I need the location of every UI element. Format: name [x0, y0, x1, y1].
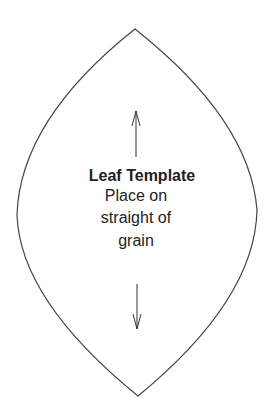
instruction-line-3: grain [0, 232, 272, 250]
leaf-template-page: Leaf Template Place on straight of grain [0, 0, 272, 412]
leaf-outline [0, 0, 272, 412]
template-title: Leaf Template [6, 167, 272, 185]
arrow-up-icon [132, 111, 140, 157]
instruction-line-2: straight of [0, 209, 272, 227]
instruction-line-1: Place on [0, 187, 272, 205]
arrow-down-icon [133, 284, 141, 329]
